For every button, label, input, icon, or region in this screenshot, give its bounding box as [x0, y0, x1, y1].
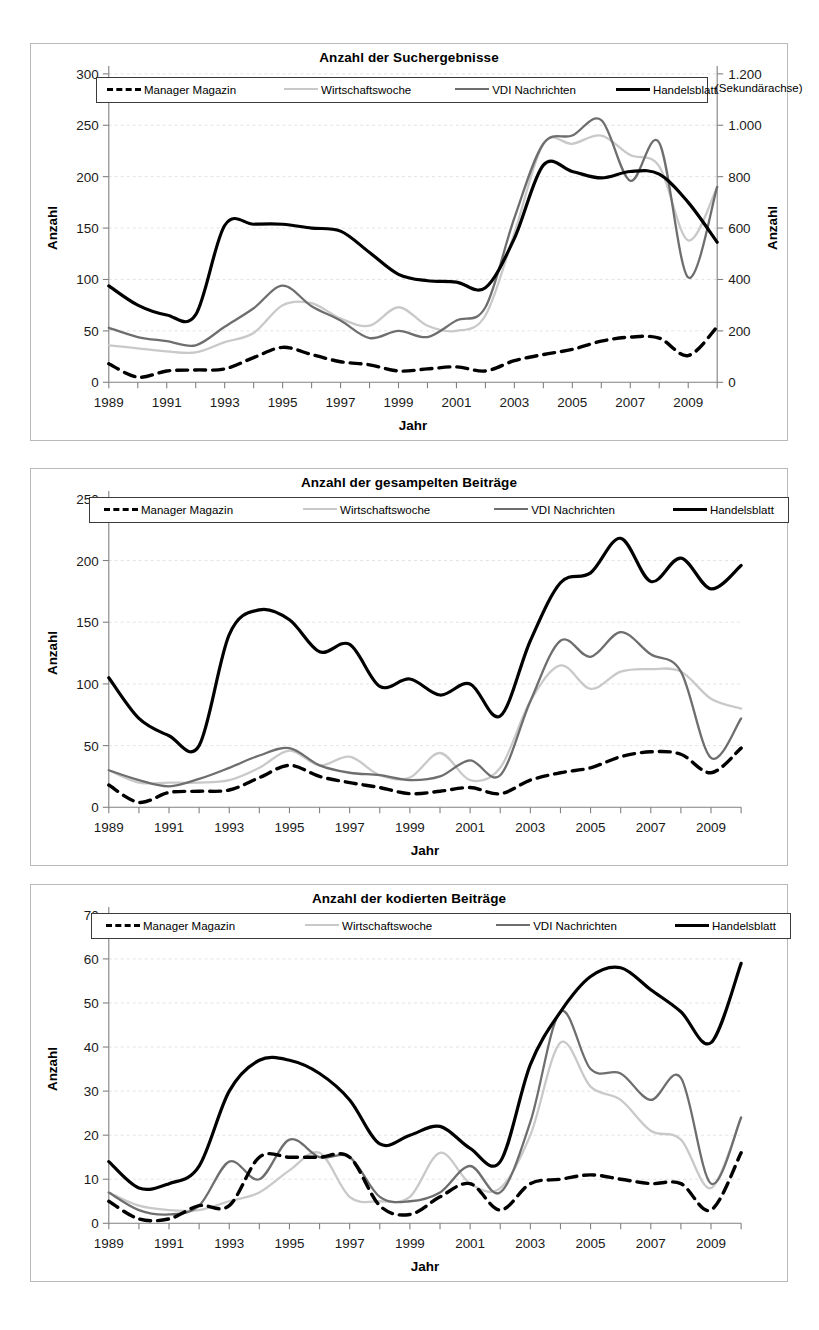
- legend-label: Handelsblatt: [710, 504, 774, 516]
- svg-text:250: 250: [76, 118, 98, 133]
- svg-text:20: 20: [84, 1128, 99, 1143]
- series-line-wirtschaftswoche: [109, 135, 717, 353]
- legend-item-vdi-nachrichten: VDI Nachrichten: [455, 84, 576, 96]
- legend-item-handelsblatt: Handelsblatt: [616, 84, 717, 96]
- document-page: Anzahl der Suchergebnisse 05010015020025…: [0, 0, 819, 1330]
- svg-text:1999: 1999: [384, 395, 414, 410]
- legend-item-manager-magazin: Manager Magazin: [107, 84, 236, 96]
- legend-label: Handelsblatt: [653, 84, 717, 96]
- series-line-wirtschaftswoche: [109, 1042, 741, 1211]
- svg-text:10: 10: [84, 1172, 99, 1187]
- svg-text:1991: 1991: [154, 820, 184, 835]
- svg-text:1999: 1999: [395, 820, 425, 835]
- svg-text:2007: 2007: [636, 820, 666, 835]
- svg-text:1995: 1995: [268, 395, 298, 410]
- legend-label: Manager Magazin: [141, 504, 233, 516]
- svg-text:1989: 1989: [94, 1236, 124, 1251]
- svg-text:50: 50: [84, 739, 99, 754]
- chart-panel-kodierte: Anzahl der kodierten Beiträge 0102030405…: [30, 884, 788, 1282]
- svg-text:1991: 1991: [152, 395, 182, 410]
- svg-text:2003: 2003: [515, 1236, 545, 1251]
- svg-text:0: 0: [91, 1216, 98, 1231]
- svg-text:2009: 2009: [673, 395, 703, 410]
- svg-text:Jahr: Jahr: [399, 418, 428, 433]
- series-line-handelsblatt: [109, 161, 717, 322]
- chart-plot-area: 0102030405060701989199119931995199719992…: [31, 885, 787, 1281]
- legend-label: Manager Magazin: [143, 920, 235, 932]
- legend-label: Wirtschaftswoche: [342, 920, 432, 932]
- legend-item-manager-magazin: Manager Magazin: [106, 920, 235, 932]
- svg-text:0: 0: [91, 375, 98, 390]
- svg-text:0: 0: [91, 800, 98, 815]
- secondary-axis-note: (Sekundärachse): [715, 82, 803, 94]
- legend-label: Handelsblatt: [712, 920, 776, 932]
- svg-text:1995: 1995: [274, 1236, 304, 1251]
- svg-text:200: 200: [728, 324, 750, 339]
- svg-text:1.000: 1.000: [728, 118, 762, 133]
- legend-label: VDI Nachrichten: [533, 920, 617, 932]
- legend-item-manager-magazin: Manager Magazin: [104, 504, 233, 516]
- svg-text:1993: 1993: [214, 1236, 244, 1251]
- svg-text:1999: 1999: [395, 1236, 425, 1251]
- series-line-manager-magazin: [109, 748, 741, 802]
- svg-text:1995: 1995: [274, 820, 304, 835]
- svg-text:1.200: 1.200: [728, 67, 762, 82]
- svg-text:150: 150: [76, 221, 98, 236]
- svg-text:2009: 2009: [696, 820, 726, 835]
- legend-item-vdi-nachrichten: VDI Nachrichten: [496, 920, 617, 932]
- series-line-manager-magazin: [109, 1153, 741, 1221]
- svg-text:1993: 1993: [214, 820, 244, 835]
- svg-text:2001: 2001: [455, 820, 485, 835]
- legend-label: VDI Nachrichten: [531, 504, 615, 516]
- svg-text:1989: 1989: [94, 820, 124, 835]
- series-line-wirtschaftswoche: [109, 665, 741, 783]
- svg-text:2009: 2009: [696, 1236, 726, 1251]
- legend-item-wirtschaftswoche: Wirtschaftswoche: [284, 84, 411, 96]
- legend-item-handelsblatt: Handelsblatt: [675, 920, 776, 932]
- series-line-handelsblatt: [109, 538, 741, 752]
- svg-text:50: 50: [84, 996, 99, 1011]
- svg-text:100: 100: [76, 272, 98, 287]
- svg-text:2001: 2001: [441, 395, 471, 410]
- legend-item-vdi-nachrichten: VDI Nachrichten: [494, 504, 615, 516]
- chart-legend: Manager MagazinWirtschaftswocheVDI Nachr…: [91, 913, 791, 939]
- legend-item-wirtschaftswoche: Wirtschaftswoche: [303, 504, 430, 516]
- svg-text:2007: 2007: [636, 1236, 666, 1251]
- chart-legend: Manager MagazinWirtschaftswocheVDI Nachr…: [89, 497, 789, 523]
- svg-text:2005: 2005: [576, 820, 606, 835]
- svg-text:2001: 2001: [455, 1236, 485, 1251]
- svg-text:Anzahl: Anzahl: [45, 631, 60, 675]
- legend-item-wirtschaftswoche: Wirtschaftswoche: [305, 920, 432, 932]
- svg-text:400: 400: [728, 272, 750, 287]
- svg-text:Anzahl: Anzahl: [45, 206, 60, 250]
- svg-text:1997: 1997: [335, 820, 365, 835]
- svg-text:Jahr: Jahr: [411, 843, 440, 858]
- svg-text:1997: 1997: [326, 395, 356, 410]
- chart-panel-gesampelte: Anzahl der gesampelten Beiträge 05010015…: [30, 468, 788, 866]
- svg-text:200: 200: [76, 170, 98, 185]
- chart-plot-area: 0501001502002503001989199119931995199719…: [31, 44, 787, 440]
- legend-item-handelsblatt: Handelsblatt: [673, 504, 774, 516]
- svg-text:2005: 2005: [557, 395, 587, 410]
- svg-text:50: 50: [84, 324, 99, 339]
- svg-text:1991: 1991: [154, 1236, 184, 1251]
- legend-label: Wirtschaftswoche: [321, 84, 411, 96]
- svg-text:200: 200: [76, 554, 98, 569]
- svg-text:Jahr: Jahr: [411, 1259, 440, 1274]
- legend-label: Manager Magazin: [144, 84, 236, 96]
- legend-label: Wirtschaftswoche: [340, 504, 430, 516]
- chart-panel-suchergebnisse: Anzahl der Suchergebnisse 05010015020025…: [30, 43, 788, 441]
- svg-text:1997: 1997: [335, 1236, 365, 1251]
- svg-text:100: 100: [76, 677, 98, 692]
- svg-text:600: 600: [728, 221, 750, 236]
- svg-text:40: 40: [84, 1040, 99, 1055]
- svg-text:0: 0: [728, 375, 735, 390]
- svg-text:150: 150: [76, 615, 98, 630]
- svg-text:2003: 2003: [499, 395, 529, 410]
- svg-text:1989: 1989: [94, 395, 124, 410]
- svg-text:Anzahl: Anzahl: [765, 206, 780, 250]
- chart-legend: Manager MagazinWirtschaftswocheVDI Nachr…: [96, 77, 708, 103]
- svg-text:2007: 2007: [615, 395, 645, 410]
- legend-label: VDI Nachrichten: [492, 84, 576, 96]
- svg-text:Anzahl: Anzahl: [45, 1047, 60, 1091]
